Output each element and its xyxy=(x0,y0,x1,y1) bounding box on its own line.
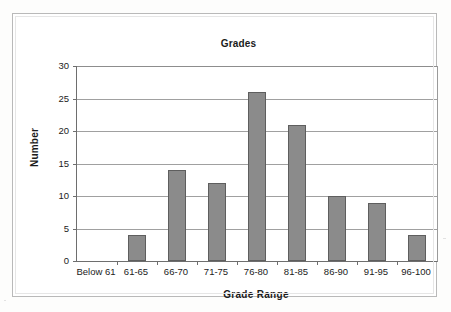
bar[interactable] xyxy=(288,125,306,262)
y-axis-title: Number xyxy=(29,118,40,178)
bar[interactable] xyxy=(208,183,226,261)
y-axis-tick xyxy=(73,196,77,197)
chart-title: Grades xyxy=(13,38,451,49)
y-axis-tick xyxy=(73,131,77,132)
y-axis-tick xyxy=(73,164,77,165)
bar[interactable] xyxy=(408,235,426,261)
bar[interactable] xyxy=(328,196,346,261)
y-axis-tick xyxy=(73,229,77,230)
plot-area: 051015202530 xyxy=(76,66,438,262)
y-axis-tick-label: 10 xyxy=(39,191,69,201)
bar[interactable] xyxy=(248,92,266,261)
bar[interactable] xyxy=(128,235,146,261)
y-axis-tick-label: 5 xyxy=(39,224,69,234)
x-axis-tick xyxy=(317,261,318,265)
y-axis-tick-label: 15 xyxy=(39,159,69,169)
bar[interactable] xyxy=(368,203,386,262)
y-axis-tick xyxy=(73,261,77,262)
x-axis-tick xyxy=(197,261,198,265)
y-axis-tick-label: 20 xyxy=(39,126,69,136)
y-axis-tick-label: 25 xyxy=(39,94,69,104)
chart-frame: Grades Number 051015202530 Below 6161-65… xyxy=(12,13,437,297)
chart-page: Grades Number 051015202530 Below 6161-65… xyxy=(0,0,451,312)
y-axis-tick-label: 0 xyxy=(39,256,69,266)
y-axis-tick xyxy=(73,99,77,100)
y-axis-tick-label: 30 xyxy=(39,61,69,71)
y-axis-tick xyxy=(73,66,77,67)
scan-speckle xyxy=(443,238,446,239)
x-axis-tick xyxy=(237,261,238,265)
bar[interactable] xyxy=(168,170,186,261)
gridline xyxy=(77,66,437,67)
x-axis-tick-label: 96-100 xyxy=(376,267,451,277)
x-axis-tick xyxy=(397,261,398,265)
scan-speckle xyxy=(4,300,6,301)
x-axis-tick xyxy=(277,261,278,265)
x-axis-tick xyxy=(157,261,158,265)
x-axis-title: Grade Range xyxy=(76,289,436,300)
x-axis-tick xyxy=(117,261,118,265)
x-axis-tick xyxy=(357,261,358,265)
